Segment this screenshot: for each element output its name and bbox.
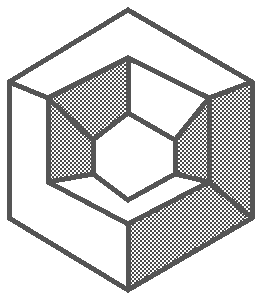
impossible-hexagon-figure: Impossible Hexagonal Frame Line drawing … bbox=[0, 0, 267, 303]
figure-canvas: Impossible Hexagonal Frame Line drawing … bbox=[0, 0, 267, 303]
